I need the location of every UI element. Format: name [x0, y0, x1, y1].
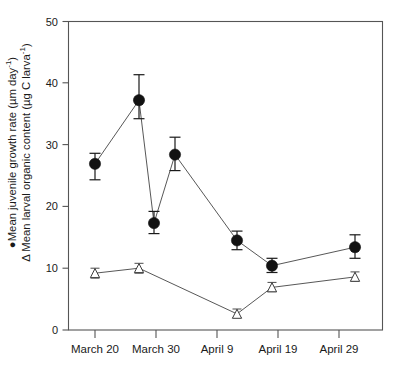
data-point-triangle: [134, 264, 143, 273]
series-juvenile-growth-rate: [89, 75, 360, 273]
data-point-triangle: [350, 272, 359, 281]
y-axis-ticks: [63, 22, 69, 331]
figure-panel: ●Mean juvenile growth rate (µm day-1) Δ …: [0, 0, 399, 370]
x-axis-tick-labels: March 20 March 30 April 9 April 19 April…: [71, 343, 358, 355]
y-tick-label-10: 10: [46, 262, 58, 274]
series-organic-content-markers: [90, 264, 359, 319]
series-larval-organic-content: [90, 263, 359, 318]
y-tick-label-50: 50: [46, 16, 58, 28]
series-growth-rate-markers: [89, 95, 360, 272]
data-point-circle: [266, 260, 277, 271]
data-point-circle: [148, 218, 159, 229]
x-tick-label-april-19: April 19: [259, 343, 298, 355]
x-tick-label-april-29: April 29: [320, 343, 359, 355]
x-tick-label-april-9: April 9: [201, 343, 234, 355]
series-organic-content-line: [95, 268, 355, 314]
series-growth-rate-errorbars: [90, 75, 361, 273]
y-tick-label-30: 30: [46, 139, 58, 151]
data-point-circle: [133, 95, 144, 106]
y-tick-label-0: 0: [52, 324, 58, 336]
plot-frame: [69, 22, 383, 331]
series-growth-rate-line: [95, 100, 355, 266]
data-point-circle: [89, 158, 100, 169]
data-point-circle: [169, 149, 180, 160]
y-tick-label-40: 40: [46, 77, 58, 89]
x-tick-label-march-30: March 30: [132, 343, 180, 355]
data-point-circle: [231, 235, 242, 246]
y-tick-label-20: 20: [46, 200, 58, 212]
y-axis-tick-labels: 0 10 20 30 40 50: [46, 16, 58, 337]
data-point-circle: [349, 242, 360, 253]
x-axis-ticks: [95, 330, 339, 338]
data-point-triangle: [232, 309, 241, 318]
series-organic-content-errorbars: [91, 263, 360, 317]
chart-svg: 0 10 20 30 40 50 March 20 March 30 April…: [0, 0, 399, 370]
x-tick-label-march-20: March 20: [71, 343, 119, 355]
